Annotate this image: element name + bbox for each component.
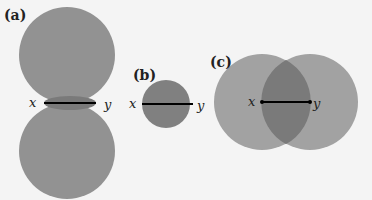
panel-b: (b) x y (129, 67, 205, 128)
panel-c-x-label: x (248, 94, 256, 109)
panel-b-x-label: x (129, 96, 137, 111)
panel-b-label: (b) (133, 67, 156, 83)
panel-c: (c) x y (210, 54, 358, 150)
panel-c-y-point (308, 100, 312, 104)
diagram-canvas: (a) x y (b) x y (c) x y (0, 0, 372, 200)
panel-c-y-label: y (312, 96, 321, 111)
panel-a-y-label: y (103, 97, 112, 112)
panel-a-label: (a) (4, 7, 26, 23)
panel-a-x-label: x (29, 95, 37, 110)
panel-c-label: (c) (210, 54, 232, 70)
panel-a-top-disk (19, 7, 115, 103)
panel-a: (a) x y (4, 7, 115, 199)
panel-b-y-label: y (196, 98, 205, 113)
panel-a-bottom-disk (19, 103, 115, 199)
panel-c-x-point (260, 100, 264, 104)
